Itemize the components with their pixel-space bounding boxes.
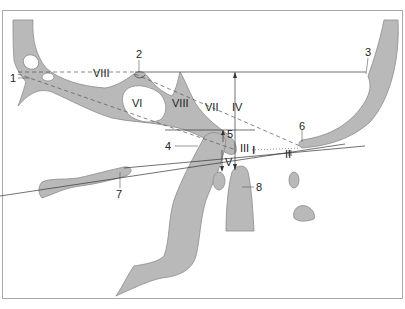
label-2: 2 xyxy=(136,48,142,60)
cephalometric-diagram: 1 2 3 4 5 6 7 8 I II III IV V VI VII VII… xyxy=(0,0,405,309)
small-oval-bone xyxy=(213,172,225,190)
label-1: 1 xyxy=(10,72,16,84)
right-curved-bone xyxy=(299,20,398,148)
label-VIII-top: VIII xyxy=(93,67,110,79)
arrow-iv-top xyxy=(233,72,237,78)
label-I: I xyxy=(252,144,255,156)
label-II: II xyxy=(285,148,291,160)
label-5: 5 xyxy=(227,128,233,140)
label-V: V xyxy=(225,156,233,168)
arrow-v-bottom xyxy=(220,166,224,172)
small-right-triangle-bone xyxy=(294,206,315,222)
cranial-base-bone xyxy=(13,20,236,154)
line-iii-dotted xyxy=(252,148,300,150)
label-7: 7 xyxy=(116,188,122,200)
label-4: 4 xyxy=(165,140,171,152)
label-VI: VI xyxy=(132,97,142,109)
label-III: III xyxy=(240,142,249,154)
bone-structures xyxy=(13,20,398,296)
foramen-opening xyxy=(42,73,54,81)
label-VIII-mid: VIII xyxy=(172,97,189,109)
leader-3 xyxy=(366,58,368,74)
finger-bone xyxy=(226,166,254,231)
s-shaped-bone xyxy=(116,133,226,296)
label-3: 3 xyxy=(365,46,371,58)
label-IV: IV xyxy=(232,101,243,113)
small-right-oval-upper xyxy=(289,172,299,188)
label-6: 6 xyxy=(299,120,305,132)
label-VII: VII xyxy=(205,101,218,113)
label-8: 8 xyxy=(256,181,262,193)
